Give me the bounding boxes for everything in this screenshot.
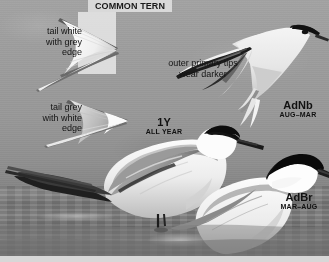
label-adnb: AdNb AUG–MAR — [272, 99, 324, 119]
label-1y-code: 1Y — [140, 116, 188, 128]
label-1y-season: ALL YEAR — [140, 128, 188, 136]
bottom-edge-strip — [0, 256, 329, 262]
annotation-outer-primary-tips: outer primary tips wear darker — [148, 58, 258, 79]
page-title: COMMON TERN — [88, 0, 172, 12]
annotation-tail-grey-white-edge: tail grey with white edge — [14, 102, 82, 134]
label-adbr: AdBr MAR–AUG — [274, 191, 324, 211]
annotation-tail-white-grey-edge: tail white with grey edge — [14, 26, 82, 58]
label-1y: 1Y ALL YEAR — [140, 116, 188, 136]
label-adbr-code: AdBr — [274, 191, 324, 203]
label-adnb-code: AdNb — [272, 99, 324, 111]
common-tern-plate: COMMON TERN tail white with grey edge ta… — [0, 0, 329, 262]
label-adbr-season: MAR–AUG — [274, 203, 324, 211]
label-adnb-season: AUG–MAR — [272, 111, 324, 119]
